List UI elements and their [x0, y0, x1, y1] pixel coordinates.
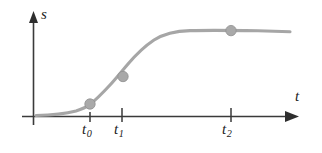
tick-label-t1: t1: [114, 122, 123, 137]
tick-label-t2-subscript: 2: [227, 128, 232, 139]
y-axis-arrowhead: [29, 11, 38, 23]
sigmoid-curve-figure: s t t0 t1 t2: [0, 0, 322, 153]
logistic-growth-curve: [36, 30, 290, 115]
x-axis-arrowhead: [285, 111, 299, 122]
figure-canvas: [0, 0, 322, 153]
tick-label-t0-base: t: [82, 121, 86, 137]
marker-t0: [85, 99, 95, 109]
tick-label-t0: t0: [82, 122, 91, 137]
tick-label-t1-subscript: 1: [119, 128, 124, 139]
tick-label-t2: t2: [222, 122, 231, 137]
x-axis-label: t: [295, 89, 299, 104]
marker-t1: [118, 71, 128, 81]
tick-label-t1-base: t: [114, 121, 118, 137]
tick-label-t0-subscript: 0: [87, 128, 92, 139]
tick-label-t2-base: t: [222, 121, 226, 137]
marker-t2: [226, 25, 236, 35]
y-axis-label: s: [41, 7, 47, 22]
